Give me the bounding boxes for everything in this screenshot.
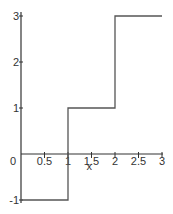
x-axis-label: x bbox=[86, 160, 92, 172]
y-tick-label: 3 bbox=[13, 10, 19, 22]
x-tick-label: 0.5 bbox=[37, 155, 52, 167]
step-function-chart: 00.511.522.53 -1123 x bbox=[0, 0, 173, 214]
data-series bbox=[21, 16, 162, 200]
step-function-line bbox=[21, 16, 162, 200]
x-tick-label: 2 bbox=[112, 155, 118, 167]
y-tick-label: 2 bbox=[13, 56, 19, 68]
y-tick-label: -1 bbox=[9, 194, 19, 206]
x-tick-label: 2.5 bbox=[131, 155, 146, 167]
x-tick-label: 0 bbox=[10, 155, 16, 167]
x-tick-label: 3 bbox=[159, 155, 165, 167]
y-tick-label: 1 bbox=[13, 102, 19, 114]
